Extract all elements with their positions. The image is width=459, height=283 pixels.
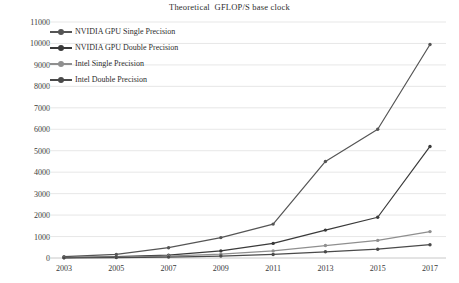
data-point-marker (324, 160, 327, 163)
data-point-marker (428, 243, 431, 246)
legend-item[interactable]: Intel Double Precision (50, 72, 250, 88)
legend-item[interactable]: NVIDIA GPU Single Precision (50, 24, 250, 40)
data-point-marker (271, 249, 274, 252)
legend-marker-icon (50, 79, 72, 81)
x-axis-tick-label: 2017 (422, 264, 438, 273)
legend-item[interactable]: NVIDIA GPU Double Precision (50, 40, 250, 56)
data-point-marker (271, 222, 274, 225)
data-point-marker (376, 216, 379, 219)
data-point-marker (428, 43, 431, 46)
x-axis-tick-label: 2015 (370, 264, 386, 273)
data-point-marker (62, 256, 65, 259)
x-axis-tick-label: 2003 (56, 264, 72, 273)
legend-label: Intel Double Precision (75, 72, 147, 88)
data-point-marker (219, 254, 222, 257)
x-axis-tick-label: 2009 (213, 264, 229, 273)
legend-marker-icon (50, 31, 72, 33)
legend-marker-icon (50, 63, 72, 65)
data-point-marker (167, 255, 170, 258)
data-point-marker (324, 250, 327, 253)
data-point-marker (167, 246, 170, 249)
x-axis-tick-label: 2005 (108, 264, 124, 273)
x-axis-tick-label: 2011 (265, 264, 281, 273)
x-axis-tick-label: 2013 (317, 264, 333, 273)
data-point-marker (271, 253, 274, 256)
legend-label: NVIDIA GPU Double Precision (75, 40, 178, 56)
data-point-marker (115, 256, 118, 259)
data-point-marker (219, 236, 222, 239)
data-point-marker (271, 242, 274, 245)
x-axis-tick-label: 2007 (161, 264, 177, 273)
chart-container: Theoretical GFLOP/S base clock 010002000… (0, 0, 459, 283)
data-point-marker (324, 244, 327, 247)
chart-legend: NVIDIA GPU Single PrecisionNVIDIA GPU Do… (50, 24, 250, 88)
legend-label: Intel Single Precision (75, 56, 144, 72)
data-point-marker (428, 230, 431, 233)
data-point-marker (428, 145, 431, 148)
data-point-marker (324, 228, 327, 231)
legend-label: NVIDIA GPU Single Precision (75, 24, 175, 40)
data-point-marker (376, 128, 379, 131)
legend-marker-icon (50, 47, 72, 49)
data-point-marker (219, 249, 222, 252)
legend-item[interactable]: Intel Single Precision (50, 56, 250, 72)
data-point-marker (376, 239, 379, 242)
data-point-marker (376, 248, 379, 251)
